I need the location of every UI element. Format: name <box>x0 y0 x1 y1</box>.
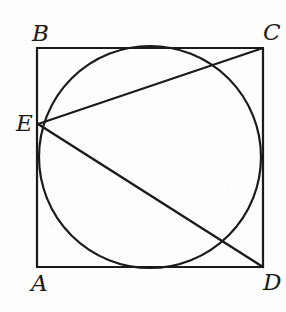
chord-ed <box>38 124 263 267</box>
vertex-label-e: E <box>16 112 33 135</box>
chord-ec <box>38 48 263 124</box>
geometry-canvas <box>0 0 286 312</box>
vertex-label-b: B <box>32 22 49 45</box>
vertex-label-c: C <box>263 21 281 44</box>
geometry-figure: B C E A D <box>0 0 286 312</box>
vertex-label-a: A <box>31 272 48 295</box>
vertex-label-d: D <box>263 271 281 294</box>
inscribed-circle <box>39 46 261 268</box>
